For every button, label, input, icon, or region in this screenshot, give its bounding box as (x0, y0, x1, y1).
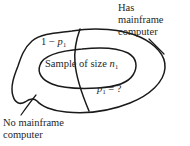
no-mainframe-label-line-1: No mainframe (3, 117, 64, 129)
complement-probability-label: 1 − p1 (41, 36, 66, 48)
venn-diagram-figure: Has mainframe computer No mainframe comp… (0, 0, 190, 146)
no-mainframe-leader-line (21, 95, 36, 115)
has-mainframe-label-line-1: Has (118, 2, 163, 14)
has-mainframe-label-line-3: computer (118, 26, 163, 38)
population-outer-blob-outline (12, 29, 165, 113)
probability-unknown-label: p1 = ? (97, 83, 121, 95)
dividing-curve (75, 29, 89, 111)
has-mainframe-label-line-2: mainframe (118, 14, 163, 26)
sample-size-subscript: 1 (115, 63, 118, 70)
probability-symbol: p (97, 83, 102, 94)
has-mainframe-leader-line (149, 39, 164, 54)
no-mainframe-label: No mainframe computer (3, 117, 64, 141)
complement-probability-symbol: p (57, 36, 62, 47)
sample-size-symbol: n (109, 58, 114, 69)
sample-size-label: Sample of size n1 (45, 58, 118, 70)
complement-probability-prefix: 1 − (41, 36, 57, 47)
sample-size-text: Sample of size (45, 58, 109, 69)
no-mainframe-label-line-2: computer (3, 129, 64, 141)
has-mainframe-label: Has mainframe computer (118, 2, 163, 37)
complement-probability-subscript: 1 (63, 41, 66, 48)
probability-subscript: 1 (103, 88, 106, 95)
probability-value: = ? (106, 83, 122, 94)
